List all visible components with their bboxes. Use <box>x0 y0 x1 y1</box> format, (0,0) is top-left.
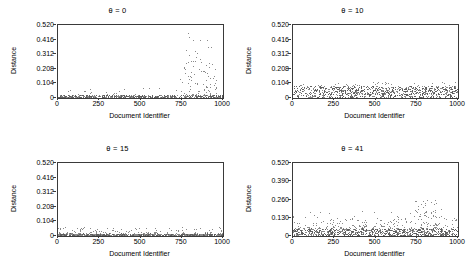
x-tick-label: 500 <box>134 100 146 107</box>
x-tick-label: 1000 <box>214 238 230 245</box>
scatter-plot-figure: θ = 0DistanceDocument Identifier00.1040.… <box>0 0 470 275</box>
plot-area <box>57 162 224 237</box>
panel-theta-10: θ = 10DistanceDocument Identifier00.1040… <box>235 0 470 137</box>
x-tick-label: 750 <box>175 100 187 107</box>
x-tick-label: 750 <box>410 238 422 245</box>
x-tick-label: 0 <box>55 100 59 107</box>
panel-theta-15: θ = 15DistanceDocument Identifier00.1040… <box>0 138 235 275</box>
x-tick-label: 1000 <box>214 100 230 107</box>
plot-area <box>292 24 459 99</box>
plot-area <box>57 24 224 99</box>
panel-theta-41: θ = 41DistanceDocument Identifier00.1300… <box>235 138 470 275</box>
x-tick-label: 750 <box>175 238 187 245</box>
x-tick-label: 250 <box>327 238 339 245</box>
x-tick-label: 1000 <box>449 238 465 245</box>
x-tick-label: 1000 <box>449 100 465 107</box>
panel-theta-0: θ = 0DistanceDocument Identifier00.1040.… <box>0 0 235 137</box>
x-tick-label: 250 <box>92 238 104 245</box>
x-tick-label: 0 <box>290 100 294 107</box>
x-tick-label: 0 <box>55 238 59 245</box>
x-tick-label: 250 <box>92 100 104 107</box>
x-tick-label: 250 <box>327 100 339 107</box>
x-tick-label: 0 <box>290 238 294 245</box>
x-tick-label: 500 <box>369 100 381 107</box>
x-tick-label: 750 <box>410 100 422 107</box>
x-tick-label: 500 <box>369 238 381 245</box>
plot-area <box>292 162 459 237</box>
x-tick-label: 500 <box>134 238 146 245</box>
